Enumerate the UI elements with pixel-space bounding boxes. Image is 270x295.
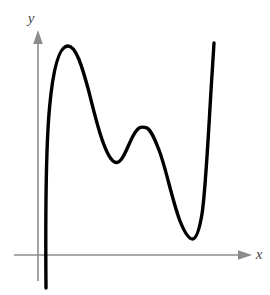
x-axis-label: x bbox=[255, 246, 263, 262]
figure-background bbox=[0, 0, 270, 295]
graph-canvas: y x bbox=[0, 0, 270, 295]
graph-figure: y x bbox=[0, 0, 270, 295]
y-axis-label: y bbox=[26, 10, 35, 26]
